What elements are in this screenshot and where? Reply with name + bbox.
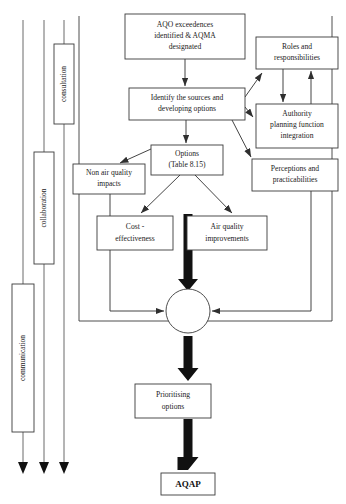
node-label-options-line1: Options bbox=[175, 149, 199, 158]
node-cost-effectiveness: Cost - effectiveness bbox=[97, 216, 173, 250]
connector-options-to-cost bbox=[141, 175, 180, 213]
node-label-aqi-line1: Air quality bbox=[210, 222, 243, 231]
connector-identify-to-authority bbox=[245, 107, 253, 117]
node-label-authority-line3: integration bbox=[281, 131, 314, 140]
lane-arrowhead-collaboration bbox=[39, 462, 49, 474]
node-authority-planning: Authority planning function integration bbox=[256, 104, 338, 148]
node-label-aqo-line1: AQO exceedences bbox=[157, 20, 213, 29]
node-label-prioritising-line1: Prioritising bbox=[156, 390, 190, 399]
lane-arrowhead-consultation bbox=[59, 462, 69, 474]
node-label-options-line2: (Table 8.15) bbox=[168, 160, 205, 169]
node-non-air-quality-impacts: Non air quality impacts bbox=[73, 164, 145, 194]
node-label-aqo-line2: identified & AQMA bbox=[154, 31, 216, 40]
node-label-roles-line1: Roles and bbox=[282, 42, 312, 51]
node-identify-sources: Identify the sources and developing opti… bbox=[129, 88, 245, 120]
node-label-authority-line1: Authority bbox=[282, 109, 312, 118]
merge-junction-circle bbox=[166, 289, 210, 333]
node-perceptions-practicabilities: Perceptions and practicabilities bbox=[252, 159, 338, 191]
connector-options-to-nonair bbox=[120, 149, 151, 163]
node-label-aqap: AQAP bbox=[175, 479, 201, 489]
node-roles-responsibilities: Roles and responsibilities bbox=[256, 37, 338, 69]
node-label-aqo-line3: designated bbox=[169, 42, 202, 51]
node-aqap: AQAP bbox=[161, 473, 215, 495]
node-label-identify-line1: Identify the sources and bbox=[151, 93, 224, 102]
lane-box-collaboration: collaboration bbox=[34, 152, 54, 264]
connector-identify-to-roles bbox=[245, 73, 262, 97]
node-label-cost-line2: effectiveness bbox=[115, 234, 155, 243]
lane-arrowhead-communication bbox=[18, 462, 28, 474]
lane-box-communication: communication bbox=[12, 284, 34, 432]
thick-arrow-prioritising-to-aqap bbox=[178, 419, 199, 470]
lane-label-consultation: consultation bbox=[59, 66, 68, 102]
node-label-prioritising-line2: options bbox=[162, 402, 184, 411]
connector-options-to-airquality bbox=[195, 175, 232, 213]
flowchart-page: consultation collaboration communication bbox=[0, 0, 346, 504]
lane-box-consultation: consultation bbox=[54, 44, 74, 124]
node-label-perceptions-line1: Perceptions and bbox=[271, 164, 319, 173]
node-prioritising-options: Prioritising options bbox=[135, 384, 211, 418]
node-label-aqi-line2: improvements bbox=[205, 234, 248, 243]
node-label-roles-line2: responsibilities bbox=[274, 53, 320, 62]
lane-label-communication: communication bbox=[18, 335, 27, 381]
lane-label-collaboration: collaboration bbox=[39, 188, 48, 227]
node-label-cost-line1: Cost - bbox=[126, 222, 145, 231]
connector-perceptions-to-junction bbox=[212, 191, 311, 311]
node-air-quality-improvements: Air quality improvements bbox=[187, 216, 267, 250]
node-label-perceptions-line2: practicabilities bbox=[273, 175, 318, 184]
node-label-nonair-line1: Non air quality bbox=[86, 168, 132, 177]
thick-arrow-junction-to-prioritising bbox=[178, 336, 199, 381]
node-options: Options (Table 8.15) bbox=[151, 145, 223, 175]
thick-arrows-group bbox=[178, 214, 199, 470]
node-label-identify-line2: developing options bbox=[158, 104, 216, 113]
connector-nonair-to-junction bbox=[110, 194, 164, 311]
connector-identify-to-perceptions bbox=[232, 120, 251, 157]
node-label-authority-line2: planning function bbox=[270, 120, 324, 129]
node-label-nonair-line2: impacts bbox=[97, 179, 121, 188]
flowchart-svg: consultation collaboration communication bbox=[0, 0, 346, 504]
node-aqo-exceedences: AQO exceedences identified & AQMA design… bbox=[125, 14, 245, 59]
